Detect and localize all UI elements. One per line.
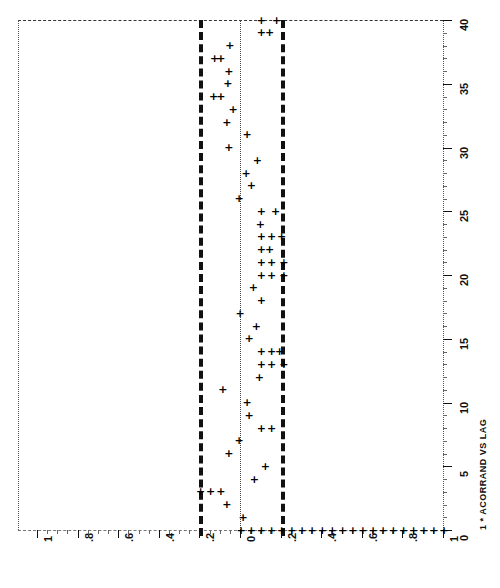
data-point-run [257, 29, 264, 36]
data-point [379, 527, 386, 534]
lag-axis-tick-1 [443, 517, 447, 518]
data-point [275, 348, 282, 355]
data-point [277, 527, 284, 534]
lag-axis-tick-2 [443, 505, 447, 506]
data-point-run [257, 208, 264, 215]
plot-frame-top [18, 20, 443, 21]
data-point [440, 527, 447, 534]
data-point [224, 68, 231, 75]
data-point [419, 527, 426, 534]
data-point [287, 527, 294, 534]
lag-axis-tick-10 [443, 403, 452, 404]
data-point [243, 399, 250, 406]
data-point [279, 272, 286, 279]
data-point [272, 17, 279, 24]
data-point [234, 437, 241, 444]
data-point-run [206, 488, 213, 495]
lag-axis-label-20: 20 [458, 274, 470, 286]
lag-axis-label-30: 30 [458, 146, 470, 158]
lag-axis-tick-30 [443, 148, 452, 149]
lag-axis-label-40: 40 [458, 19, 470, 31]
value-axis-tick--4 [199, 530, 200, 538]
data-point [222, 119, 229, 126]
data-point [267, 527, 274, 534]
zero-reference-line [240, 20, 241, 536]
value-axis-tick--8 [159, 530, 160, 538]
lag-axis-tick-5 [443, 466, 452, 467]
lag-axis-tick-19 [443, 288, 447, 289]
lag-axis-tick-37 [443, 58, 447, 59]
lag-axis-tick-29 [443, 160, 447, 161]
data-point [256, 221, 263, 228]
data-point [245, 412, 252, 419]
data-point [224, 450, 231, 457]
data-point [257, 297, 264, 304]
data-point-run [257, 246, 264, 253]
data-point-run [257, 259, 264, 266]
lag-axis-tick-11 [443, 390, 447, 391]
data-point [429, 527, 436, 534]
plot-area: 05101520253035401.8.6.4.20.2.4.6.81 [0, 0, 500, 588]
data-point [409, 527, 416, 534]
lag-axis-label-15: 15 [458, 338, 470, 350]
data-point-run [267, 272, 274, 279]
autocorrelation-plot: 05101520253035401.8.6.4.20.2.4.6.81 1 * … [0, 0, 500, 588]
data-point [253, 157, 260, 164]
data-point [399, 527, 406, 534]
data-point-run [267, 259, 274, 266]
value-axis-label-1: .8 [83, 533, 95, 542]
data-point [234, 195, 241, 202]
data-point [318, 527, 325, 534]
lag-axis-tick-25 [443, 211, 452, 212]
lag-axis-tick-26 [443, 199, 447, 200]
lag-axis-tick-33 [443, 109, 447, 110]
lag-axis-tick-13 [443, 364, 447, 365]
data-point [389, 527, 396, 534]
data-point-run [216, 55, 223, 62]
data-point-run [267, 361, 274, 368]
lag-axis-tick-39 [443, 33, 447, 34]
lag-axis-tick-34 [443, 97, 447, 98]
data-point-run [257, 348, 264, 355]
lag-axis-tick-18 [443, 301, 447, 302]
lag-axis-tick-38 [443, 46, 447, 47]
value-axis-tick--16 [78, 530, 79, 538]
data-point [308, 527, 315, 534]
data-point [271, 208, 278, 215]
data-point-run [257, 17, 264, 24]
lag-axis-tick-9 [443, 415, 447, 416]
value-axis-tick--13 [108, 530, 109, 534]
lag-axis-tick-4 [443, 479, 447, 480]
lag-axis-tick-23 [443, 237, 447, 238]
data-point [338, 527, 345, 534]
data-point [358, 527, 365, 534]
data-point [209, 93, 216, 100]
value-axis-label-4: .2 [204, 533, 216, 542]
data-point [242, 170, 249, 177]
lag-axis-tick-40 [443, 20, 452, 21]
data-point [257, 527, 264, 534]
value-axis-tick--5 [189, 530, 190, 534]
lag-axis-tick-32 [443, 122, 447, 123]
value-axis-tick--10 [139, 530, 140, 534]
data-point [235, 310, 242, 317]
data-point [348, 527, 355, 534]
data-point-run [267, 348, 274, 355]
lag-axis-tick-16 [443, 326, 447, 327]
lag-axis-tick-3 [443, 492, 447, 493]
value-axis-label-2: .6 [123, 533, 135, 542]
value-axis-tick--2 [220, 530, 221, 534]
lag-axis-tick-36 [443, 71, 447, 72]
data-point [247, 182, 254, 189]
data-point [223, 80, 230, 87]
data-point [196, 488, 203, 495]
data-point [218, 386, 225, 393]
data-point [250, 476, 257, 483]
value-axis-tick--1 [230, 530, 231, 534]
lag-axis-tick-6 [443, 454, 447, 455]
data-point-run [216, 488, 223, 495]
lag-axis-tick-35 [443, 84, 452, 85]
data-point [225, 42, 232, 49]
value-axis-tick--17 [67, 530, 68, 534]
lag-axis-tick-7 [443, 441, 447, 442]
